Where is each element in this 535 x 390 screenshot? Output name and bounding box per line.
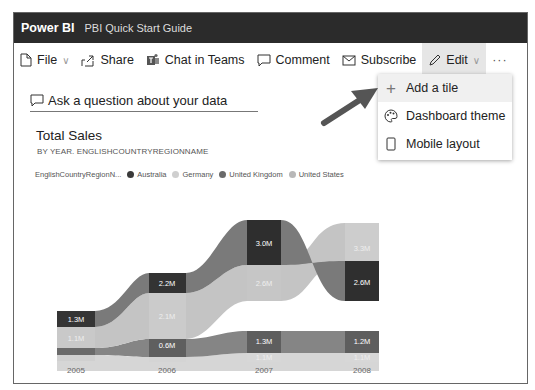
x-tick-2005: 2005 — [67, 366, 85, 375]
label-2008-germany: 3.3M — [354, 244, 371, 253]
ribbon-chart[interactable]: 1.3M 1.1M 2.2M 2.1M 0.6M 3.0M 2.6M 1.3M … — [14, 13, 527, 383]
label-2007-germany: 2.6M — [256, 279, 273, 288]
x-tick-2008: 2008 — [353, 366, 371, 375]
power-bi-window: Power BI PBI Quick Start Guide File ∨ Sh… — [13, 12, 528, 384]
edit-dropdown-menu: + Add a tile Dashboard theme Mobile layo… — [378, 74, 512, 160]
ribbon-united-states — [57, 353, 379, 371]
label-2007-us: 1.1M — [256, 353, 273, 362]
palette-icon — [384, 109, 398, 123]
label-2008-australia: 2.6M — [354, 278, 371, 287]
label-2005-australia: 1.3M — [68, 315, 85, 324]
label-2008-uk: 1.2M — [354, 337, 371, 346]
label-2007-uk: 1.3M — [256, 337, 273, 346]
x-tick-2007: 2007 — [255, 366, 273, 375]
x-tick-2006: 2006 — [158, 366, 176, 375]
menu-item-add-a-tile[interactable]: + Add a tile — [378, 74, 512, 102]
menu-item-dashboard-theme[interactable]: Dashboard theme — [378, 102, 512, 130]
plus-icon: + — [384, 80, 398, 97]
label-2007-australia: 3.0M — [256, 239, 273, 248]
label-2008-us: 1.1M — [354, 353, 371, 362]
label-2006-uk: 0.6M — [159, 341, 176, 350]
menu-item-label: Mobile layout — [406, 137, 480, 151]
phone-icon — [384, 137, 398, 151]
label-2005-germany: 1.1M — [68, 334, 85, 343]
label-2006-germany: 2.1M — [159, 312, 176, 321]
menu-item-mobile-layout[interactable]: Mobile layout — [378, 130, 512, 158]
menu-item-label: Add a tile — [406, 81, 458, 95]
menu-item-label: Dashboard theme — [406, 109, 505, 123]
label-2006-australia: 2.2M — [159, 279, 176, 288]
annotation-arrow — [324, 88, 378, 123]
